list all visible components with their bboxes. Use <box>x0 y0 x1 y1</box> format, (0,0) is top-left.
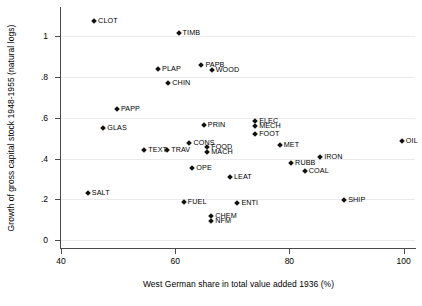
y-tick-mark <box>55 36 60 37</box>
data-point-label: CLOT <box>98 16 118 25</box>
data-point-marker <box>85 190 91 196</box>
data-point-marker <box>277 142 283 148</box>
data-point-label: NFM <box>215 216 231 225</box>
data-point-marker <box>176 31 182 37</box>
data-point-marker <box>155 67 161 73</box>
plot-area: CLOTTIMBPAPBPLAPWOODCHINPAPPELECPRINMECH… <box>61 8 415 248</box>
x-tick-label: 60 <box>155 256 195 266</box>
data-point-label: CHIN <box>172 78 190 87</box>
x-tick-label: 40 <box>41 256 81 266</box>
data-point-label: FUEL <box>188 197 207 206</box>
data-point-marker <box>142 147 148 153</box>
data-point-label: LEAT <box>234 172 252 181</box>
y-tick-label: .8 <box>8 73 48 82</box>
data-point-label: ENTI <box>241 198 258 207</box>
data-point-label: PLAP <box>162 64 181 73</box>
data-point-label: SALT <box>92 188 110 197</box>
y-tick-label: 1 <box>8 32 48 41</box>
data-point-marker <box>252 131 258 137</box>
data-point-marker <box>91 18 97 24</box>
data-point-marker <box>302 168 308 174</box>
data-point-marker <box>199 62 205 68</box>
y-tick-label: .4 <box>8 155 48 164</box>
data-point-marker <box>114 106 120 112</box>
x-tick-mark <box>175 249 176 254</box>
x-axis-title: West German share in total value added 1… <box>61 279 416 289</box>
data-point-label: WOOD <box>216 65 240 74</box>
x-axis-line <box>60 248 416 249</box>
data-point-marker <box>209 68 215 74</box>
data-point-label: SHIP <box>348 195 365 204</box>
gridline-y <box>61 159 415 160</box>
gridline-y <box>61 36 415 37</box>
data-point-marker <box>100 125 106 131</box>
x-tick-mark <box>289 249 290 254</box>
x-tick-mark <box>404 249 405 254</box>
y-tick-label: 0 <box>8 236 48 245</box>
data-point-marker <box>201 122 207 128</box>
data-point-marker <box>165 80 171 86</box>
y-tick-mark <box>55 118 60 119</box>
data-point-label: OPE <box>196 163 211 172</box>
data-point-marker <box>181 199 187 205</box>
y-tick-mark <box>55 77 60 78</box>
y-tick-mark <box>55 199 60 200</box>
data-point-marker <box>399 138 405 144</box>
y-tick-label: .6 <box>8 114 48 123</box>
x-tick-mark <box>61 249 62 254</box>
x-tick-label: 80 <box>269 256 309 266</box>
data-point-label: TRAV <box>171 145 190 154</box>
data-point-label: PAPP <box>121 104 140 113</box>
data-point-marker <box>189 165 195 171</box>
y-tick-mark <box>55 159 60 160</box>
data-point-marker <box>235 200 241 206</box>
y-tick-mark <box>55 240 60 241</box>
data-point-label: MET <box>284 140 299 149</box>
y-tick-label: .2 <box>8 195 48 204</box>
gridline-y <box>61 77 415 78</box>
data-point-label: GLAS <box>107 123 127 132</box>
x-tick-label: 100 <box>384 256 422 266</box>
data-point-label: OIL <box>406 136 418 145</box>
data-point-label: PRIN <box>208 120 226 129</box>
data-point-label: FOOT <box>259 129 279 138</box>
data-point-marker <box>208 218 214 224</box>
data-point-marker <box>227 174 233 180</box>
data-point-marker <box>288 160 294 166</box>
scatter-plot-figure: Growth of gross capital stock 1948-1955 … <box>0 0 422 306</box>
data-point-marker <box>252 124 258 130</box>
data-point-label: TIMB <box>183 28 201 37</box>
data-point-label: MACH <box>211 147 233 156</box>
gridline-y <box>61 118 415 119</box>
data-point-label: IRON <box>324 152 342 161</box>
data-point-marker <box>204 149 210 155</box>
data-point-marker <box>164 147 170 153</box>
gridline-y <box>61 240 415 241</box>
data-point-label: COAL <box>309 166 329 175</box>
